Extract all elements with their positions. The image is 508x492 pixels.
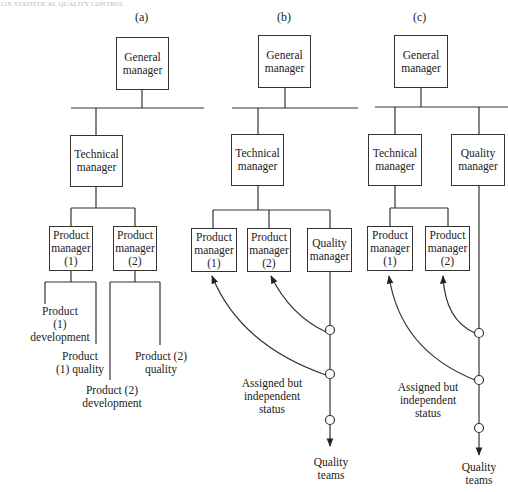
org-box-c-tm: Technicalmanager <box>368 134 422 186</box>
diagram-label-a-p2-qual: Product (2)quality <box>116 350 206 376</box>
org-box-text: Technical <box>74 148 119 161</box>
panel-label-c: (c) <box>413 10 426 25</box>
org-box-c-pm2: Productmanager(2) <box>425 226 470 271</box>
org-box-b-tm: Technicalmanager <box>231 134 284 186</box>
org-box-a-pm2: Productmanager(2) <box>113 226 157 271</box>
org-box-c-gm: Generalmanager <box>394 35 448 88</box>
org-box-text: Product <box>117 229 153 242</box>
org-box-text: manager <box>265 62 305 75</box>
org-box-b-pm2: Productmanager(2) <box>247 228 291 272</box>
org-box-text: Product <box>251 231 287 244</box>
org-box-text: General <box>403 49 439 62</box>
org-box-text: manager <box>51 242 91 255</box>
diagram-label-line: development <box>67 397 157 410</box>
diagram-label-c-teams: Qualityteams <box>434 461 508 487</box>
diagram-label-line: Assigned but <box>383 381 473 394</box>
org-box-text: General <box>124 51 160 64</box>
org-box-text: manager <box>77 161 117 174</box>
diagram-label-line: teams <box>434 474 508 487</box>
diagram-label-line: Product (2) <box>67 384 157 397</box>
org-box-text: (2) <box>128 255 141 268</box>
org-box-text: (1) <box>207 257 220 270</box>
org-box-text: manager <box>375 160 415 173</box>
diagram-label-line: Product <box>15 305 105 318</box>
org-box-text: Quality <box>312 237 347 250</box>
org-box-a-gm: Generalmanager <box>116 37 169 90</box>
diagram-label-line: status <box>383 407 473 420</box>
org-box-text: manager <box>458 160 498 173</box>
org-box-text: Quality <box>461 147 496 160</box>
diagram-label-a-p1-qual: Product(1) quality <box>35 350 125 376</box>
org-box-c-qm: Qualitymanager <box>451 134 505 186</box>
diagram-label-line: Product <box>35 350 125 363</box>
org-box-a-tm: Technicalmanager <box>70 135 123 187</box>
org-box-text: (1) <box>64 255 77 268</box>
diagram-label-line: (1) <box>15 318 105 331</box>
diagram-label-line: status <box>227 403 317 416</box>
diagram-label-a-p1-dev: Product(1)development <box>15 305 105 344</box>
org-box-text: Product <box>196 231 232 244</box>
diagram-label-line: (1) quality <box>35 363 125 376</box>
diagram-label-c-assigned: Assigned butindependentstatus <box>383 381 473 420</box>
diagram-label-line: independent <box>227 390 317 403</box>
org-box-a-pm1: Productmanager(1) <box>49 226 93 271</box>
panel-label-b: (b) <box>277 10 291 25</box>
diagram-label-b-assigned: Assigned butindependentstatus <box>227 377 317 416</box>
org-box-text: Product <box>430 229 466 242</box>
org-box-text: (2) <box>441 255 454 268</box>
diagram-label-line: Assigned but <box>227 377 317 390</box>
org-box-c-pm1: Productmanager(1) <box>367 226 413 271</box>
org-box-text: manager <box>249 244 289 257</box>
org-box-text: General <box>266 49 302 62</box>
org-box-text: Technical <box>373 147 418 160</box>
panel-label-a: (a) <box>135 10 148 25</box>
org-box-text: manager <box>310 250 350 263</box>
org-box-text: manager <box>370 242 410 255</box>
org-box-text: Technical <box>235 147 280 160</box>
org-box-text: manager <box>194 244 234 257</box>
org-box-b-gm: Generalmanager <box>258 35 311 88</box>
org-box-text: Product <box>53 229 89 242</box>
diagram-label-line: independent <box>383 394 473 407</box>
org-box-text: manager <box>238 160 278 173</box>
diagram-label-b-teams: Qualityteams <box>286 456 376 482</box>
org-box-text: manager <box>428 242 468 255</box>
org-box-text: manager <box>115 242 155 255</box>
diagram-label-line: development <box>15 331 105 344</box>
diagram-label-line: quality <box>116 363 206 376</box>
org-box-text: manager <box>401 62 441 75</box>
diagram-label-line: teams <box>286 469 376 482</box>
diagram-label-line: Quality <box>434 461 508 474</box>
org-box-text: (1) <box>383 255 396 268</box>
org-box-b-pm1: Productmanager(1) <box>191 228 237 272</box>
diagram-label-a-p2-dev: Product (2)development <box>67 384 157 410</box>
org-box-text: Product <box>372 229 408 242</box>
diagram-label-line: Quality <box>286 456 376 469</box>
org-box-text: manager <box>123 64 163 77</box>
org-box-b-qm: Qualitymanager <box>307 228 352 272</box>
org-box-text: (2) <box>262 257 275 270</box>
diagram-label-line: Product (2) <box>116 350 206 363</box>
